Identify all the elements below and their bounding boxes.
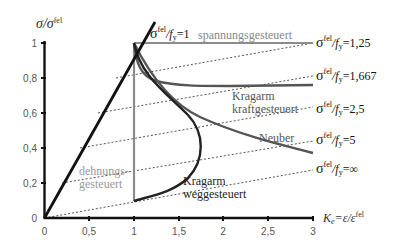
svg-text:0,8: 0,8 bbox=[23, 73, 37, 84]
kraftgesteuert-label-2: kraftgesteuert bbox=[232, 102, 299, 116]
chart: 1 0,8 0,6 0,4 0,2 0 0 0,5 1 1,5 2 2,5 3 … bbox=[0, 0, 397, 251]
svg-text:σfel/fy=1,25: σfel/fy=1,25 bbox=[316, 34, 370, 51]
svg-text:2: 2 bbox=[220, 226, 226, 237]
svg-text:σfel/fy=2,5: σfel/fy=2,5 bbox=[316, 100, 364, 117]
svg-text:1: 1 bbox=[131, 226, 137, 237]
spannungsgesteuert-label: spannungsgesteuert bbox=[198, 28, 293, 42]
svg-text:σfel/fy=∞: σfel/fy=∞ bbox=[316, 160, 358, 177]
x-axis-label: Ke=ε/εfel bbox=[322, 210, 365, 226]
ratio-label-1: σfel/fy=1 bbox=[150, 25, 189, 42]
kraftgesteuert-label-1: Kragarm bbox=[232, 89, 275, 103]
neuber-label: Neuber bbox=[259, 131, 294, 145]
svg-text:0,4: 0,4 bbox=[23, 143, 37, 154]
x-tick-labels: 0 0,5 1 1,5 2 2,5 3 bbox=[42, 226, 317, 237]
svg-text:0,2: 0,2 bbox=[23, 178, 37, 189]
svg-text:0: 0 bbox=[31, 213, 37, 224]
svg-text:2,5: 2,5 bbox=[261, 226, 275, 237]
svg-text:0: 0 bbox=[42, 226, 48, 237]
svg-text:3: 3 bbox=[310, 226, 316, 237]
y-tick-labels: 1 0,8 0,6 0,4 0,2 0 bbox=[23, 38, 37, 224]
svg-text:σfel/fy=5: σfel/fy=5 bbox=[316, 131, 355, 148]
svg-text:0,6: 0,6 bbox=[23, 108, 37, 119]
svg-text:σfel/fy=1,667: σfel/fy=1,667 bbox=[316, 67, 376, 84]
svg-text:1,5: 1,5 bbox=[172, 226, 186, 237]
y-axis-label: σ/σfel bbox=[36, 16, 63, 31]
svg-text:0,5: 0,5 bbox=[82, 226, 96, 237]
svg-text:1: 1 bbox=[31, 38, 37, 49]
kragarm-kraftgesteuert-curve bbox=[134, 43, 313, 86]
weggesteuert-label-2: weggesteuert bbox=[183, 187, 247, 201]
dehnungsgesteuert-label-1: dehnungs- bbox=[79, 164, 129, 178]
dehnungsgesteuert-label-2: gesteuert bbox=[79, 177, 123, 191]
weggesteuert-label-1: Kragarm bbox=[183, 174, 226, 188]
axes bbox=[44, 41, 315, 218]
ratio-labels: σfel/fy=1,25 σfel/fy=1,667 σfel/fy=2,5 σ… bbox=[316, 34, 376, 177]
